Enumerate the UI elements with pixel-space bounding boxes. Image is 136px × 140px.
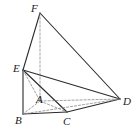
edge-F-D xyxy=(40,13,120,99)
vertex-label-f: F xyxy=(31,3,38,14)
vertex-label-e: E xyxy=(13,63,20,74)
edge-B-C xyxy=(23,112,67,114)
vertex-label-d: D xyxy=(123,96,131,107)
geometry-figure: ABCDEF xyxy=(0,0,136,140)
edge-C-D xyxy=(67,99,120,112)
edge-F-E xyxy=(23,13,40,70)
vertex-label-c: C xyxy=(63,116,70,127)
vertex-label-b: B xyxy=(15,115,22,126)
vertex-label-a: A xyxy=(36,94,43,105)
